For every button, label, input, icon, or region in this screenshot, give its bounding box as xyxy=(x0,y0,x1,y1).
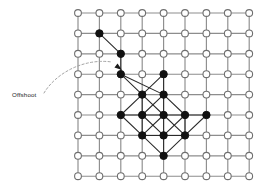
tree-edge xyxy=(121,95,142,115)
open-site-node xyxy=(75,50,82,57)
open-site-node xyxy=(203,91,210,98)
open-site-node xyxy=(96,173,103,180)
open-site-node xyxy=(224,173,231,180)
open-site-node xyxy=(224,10,231,17)
open-site-node xyxy=(117,173,124,180)
occupied-site-node xyxy=(117,111,124,118)
open-site-node xyxy=(246,30,253,37)
open-site-node xyxy=(96,152,103,159)
open-site-node xyxy=(203,132,210,139)
open-site-node xyxy=(246,10,253,17)
open-site-node xyxy=(224,50,231,57)
occupied-site-node xyxy=(139,132,146,139)
tree-edge xyxy=(99,33,120,53)
open-site-node xyxy=(96,50,103,57)
open-site-node xyxy=(182,50,189,57)
open-site-node xyxy=(182,173,189,180)
open-site-node xyxy=(203,10,210,17)
open-site-node xyxy=(246,50,253,57)
open-site-node xyxy=(224,71,231,78)
open-site-node xyxy=(139,10,146,17)
open-site-node xyxy=(203,173,210,180)
occupied-site-node xyxy=(160,111,167,118)
lattice-node-group xyxy=(75,10,253,180)
open-site-node xyxy=(139,50,146,57)
open-site-node xyxy=(75,10,82,17)
open-site-node xyxy=(246,112,253,119)
tree-edge xyxy=(121,74,142,94)
open-site-node xyxy=(96,10,103,17)
occupied-site-node xyxy=(181,132,188,139)
open-site-node xyxy=(160,10,167,17)
lattice-tree-diagram: Offshoot xyxy=(0,0,261,190)
occupied-site-node xyxy=(117,50,124,57)
occupied-site-node xyxy=(139,111,146,118)
occupied-site-node xyxy=(117,71,124,78)
figure-canvas: Offshoot xyxy=(0,0,261,190)
open-site-node xyxy=(160,30,167,37)
open-site-node xyxy=(182,10,189,17)
open-site-node xyxy=(139,152,146,159)
open-site-node xyxy=(182,30,189,37)
occupied-site-node xyxy=(160,71,167,78)
occupied-site-node xyxy=(203,111,210,118)
open-site-node xyxy=(246,91,253,98)
open-site-node xyxy=(203,50,210,57)
open-site-node xyxy=(117,152,124,159)
open-site-node xyxy=(75,30,82,37)
open-site-node xyxy=(75,91,82,98)
open-site-node xyxy=(160,50,167,57)
tree-edge xyxy=(142,74,163,94)
open-site-node xyxy=(96,91,103,98)
open-site-node xyxy=(224,91,231,98)
open-site-node xyxy=(139,173,146,180)
open-site-node xyxy=(203,71,210,78)
occupied-site-node xyxy=(160,132,167,139)
open-site-node xyxy=(75,152,82,159)
open-site-node xyxy=(182,91,189,98)
open-site-node xyxy=(182,71,189,78)
open-site-node xyxy=(96,71,103,78)
open-site-node xyxy=(246,71,253,78)
open-site-node xyxy=(117,132,124,139)
open-site-node xyxy=(246,173,253,180)
open-site-node xyxy=(182,152,189,159)
open-site-node xyxy=(224,152,231,159)
open-site-node xyxy=(75,132,82,139)
open-site-node xyxy=(246,132,253,139)
open-site-node xyxy=(117,30,124,37)
open-site-node xyxy=(224,132,231,139)
occupied-site-node xyxy=(96,30,103,37)
tree-edge xyxy=(164,95,185,115)
open-site-node xyxy=(139,71,146,78)
open-site-node xyxy=(160,173,167,180)
tree-edge xyxy=(164,135,185,155)
offshoot-annotation: Offshoot xyxy=(12,61,122,98)
open-site-node xyxy=(203,30,210,37)
open-site-node xyxy=(203,152,210,159)
open-site-node xyxy=(96,132,103,139)
tree-edge xyxy=(185,115,206,135)
tree-edge xyxy=(121,115,142,135)
open-site-node xyxy=(75,112,82,119)
occupied-site-node xyxy=(160,91,167,98)
open-site-node xyxy=(117,91,124,98)
open-site-node xyxy=(75,173,82,180)
occupied-site-node xyxy=(181,111,188,118)
occupied-site-node xyxy=(160,152,167,159)
open-site-node xyxy=(75,71,82,78)
open-site-node xyxy=(246,152,253,159)
offshoot-label: Offshoot xyxy=(12,91,37,98)
open-site-node xyxy=(224,30,231,37)
open-site-node xyxy=(224,112,231,119)
tree-edge xyxy=(142,135,163,155)
open-site-node xyxy=(117,10,124,17)
open-site-node xyxy=(139,30,146,37)
occupied-site-node xyxy=(139,91,146,98)
open-site-node xyxy=(96,112,103,119)
